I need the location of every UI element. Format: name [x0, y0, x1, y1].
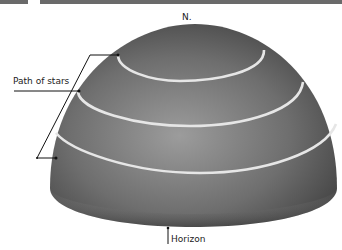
horizon-label: Horizon — [171, 234, 205, 244]
celestial-dome-diagram — [0, 0, 342, 250]
path-of-stars-label: Path of stars — [13, 76, 69, 86]
north-label: N. — [182, 12, 192, 22]
